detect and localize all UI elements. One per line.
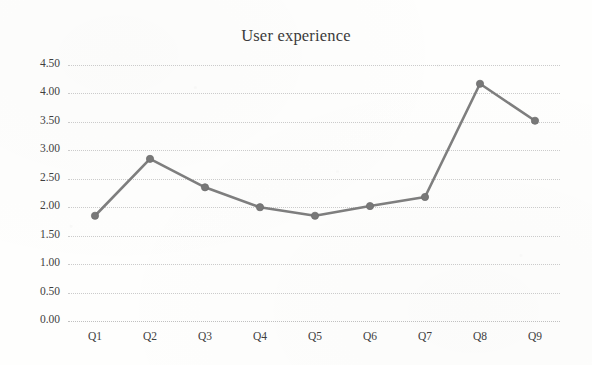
series-line-user-experience xyxy=(95,84,535,216)
data-series-layer xyxy=(0,0,592,365)
data-point-q5 xyxy=(311,212,318,219)
data-point-q9 xyxy=(531,117,538,124)
data-point-q6 xyxy=(366,202,373,209)
data-point-q3 xyxy=(201,184,208,191)
chart-figure: User experience 4.504.003.503.002.502.00… xyxy=(0,0,592,365)
data-point-q7 xyxy=(421,193,428,200)
data-point-q8 xyxy=(476,80,483,87)
data-point-q2 xyxy=(146,155,153,162)
data-point-q1 xyxy=(91,212,98,219)
plot-area: 4.504.003.503.002.502.001.501.000.500.00… xyxy=(0,0,592,365)
data-point-q4 xyxy=(256,204,263,211)
